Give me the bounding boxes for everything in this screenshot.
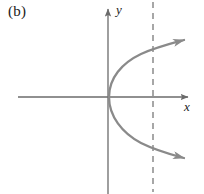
y-axis-label: y	[116, 2, 122, 18]
x-axis-label: x	[184, 99, 190, 115]
graph-canvas	[0, 0, 204, 194]
figure-panel-b: (b) y x	[0, 0, 204, 194]
parabola-lower-branch	[109, 97, 184, 158]
parabola-upper-branch	[109, 40, 184, 97]
